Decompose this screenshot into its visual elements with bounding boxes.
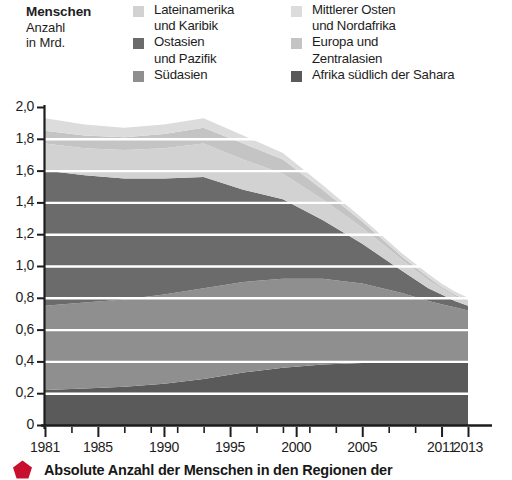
y-axis-tick-label: 1,6: [0, 162, 34, 178]
y-axis-tick-label: 0,8: [0, 289, 34, 305]
caption-text: Absolute Anzahl der Menschen in den Regi…: [44, 462, 494, 478]
legend-column-2: Mittlerer Osten und Nordafrika Europa un…: [291, 2, 512, 83]
y-axis-tick-label: 1,0: [0, 257, 34, 273]
y-axis-tick-label: 1,2: [0, 225, 34, 241]
y-axis-tick-label: 0,2: [0, 384, 34, 400]
legend-item-afrika: Afrika südlich der Sahara: [291, 67, 512, 83]
legend-swatch-lateinamerika: [133, 6, 144, 17]
y-axis-tick-label: 0: [0, 416, 34, 432]
pentagon-bullet-icon: [12, 459, 33, 480]
legend-label-europa: Europa und Zentralasien: [312, 34, 512, 66]
legend-item-suedasien: Südasien: [133, 67, 288, 83]
legend-swatch-ostasien: [133, 38, 144, 49]
legend-item-mittlerer-osten: Mittlerer Osten und Nordafrika: [291, 2, 512, 34]
y-axis-tick-label: 1,4: [0, 193, 34, 209]
legend-swatch-afrika: [291, 71, 302, 82]
y-axis-tick-label: 0,4: [0, 352, 34, 368]
y-axis-title-line1: Menschen: [26, 4, 136, 20]
legend-swatch-suedasien: [133, 71, 144, 82]
legend-label-ostasien: Ostasien und Pazifik: [154, 34, 288, 66]
y-axis-title: Menschen Anzahl in Mrd.: [26, 4, 136, 51]
legend-label-mittlerer-osten: Mittlerer Osten und Nordafrika: [312, 2, 512, 34]
chart-header: Menschen Anzahl in Mrd. Lateinamerika un…: [0, 0, 512, 100]
legend-item-lateinamerika: Lateinamerika und Karibik: [133, 2, 288, 34]
y-axis-tick-label: 2,0: [0, 98, 34, 114]
legend-label-suedasien: Südasien: [154, 67, 288, 83]
y-axis-tick-label: 0,6: [0, 321, 34, 337]
legend-label-afrika: Afrika südlich der Sahara: [312, 67, 512, 83]
legend-swatch-mittlerer-osten: [291, 6, 302, 17]
legend-label-lateinamerika: Lateinamerika und Karibik: [154, 2, 288, 34]
legend-item-europa: Europa und Zentralasien: [291, 34, 512, 66]
legend-swatch-europa: [291, 38, 302, 49]
chart-plot-area: 2,01,81,61,41,21,00,80,60,40,20198119851…: [0, 100, 512, 445]
legend-item-ostasien: Ostasien und Pazifik: [133, 34, 288, 66]
stacked-area-chart: [0, 100, 512, 445]
y-axis-title-line3: in Mrd.: [26, 35, 136, 51]
y-axis-title-line2: Anzahl: [26, 20, 136, 36]
y-axis-tick-label: 1,8: [0, 130, 34, 146]
chart-caption: Absolute Anzahl der Menschen in den Regi…: [0, 452, 512, 480]
legend-column-1: Lateinamerika und Karibik Ostasien und P…: [133, 2, 288, 83]
